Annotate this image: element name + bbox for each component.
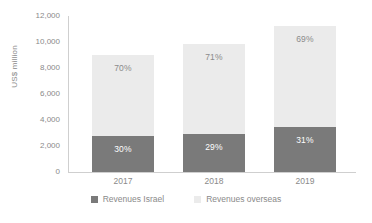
x-axis-tick-label-2017: 2017 (92, 177, 154, 186)
bar-segment-label: 31% (296, 136, 314, 145)
bar-segment-israel[interactable]: 31% (274, 127, 336, 172)
bar-group-2018[interactable]: 71% 29% (183, 44, 245, 172)
legend-item-label: Revenues overseas (206, 195, 281, 204)
chart-legend: Revenues Israel Revenues overseas (0, 195, 372, 204)
legend-item-revenues-overseas[interactable]: Revenues overseas (194, 195, 281, 204)
stacked-bar-chart: US$ million 12,000 10,000 8,000 6,000 4,… (0, 0, 372, 223)
legend-item-label: Revenues Israel (103, 195, 164, 204)
bars-layer: 70% 30% 71% 29% 69% (68, 16, 356, 173)
bar-segment-israel[interactable]: 30% (92, 136, 154, 172)
bar-segment-overseas[interactable]: 71% (183, 44, 245, 134)
bar-segment-label: 71% (205, 53, 223, 62)
bar-segment-label: 30% (114, 145, 132, 154)
y-axis-tick-label: 12,000 (36, 12, 60, 20)
y-axis-tick-label: 4,000 (40, 116, 60, 124)
y-axis-tick-label: 8,000 (40, 64, 60, 72)
y-axis-tick-label: 10,000 (36, 38, 60, 46)
bar-segment-label: 70% (114, 64, 132, 73)
bar-segment-overseas[interactable]: 69% (274, 26, 336, 127)
x-axis-tick-label-2018: 2018 (183, 177, 245, 186)
y-axis-tick-labels: 12,000 10,000 8,000 6,000 4,000 2,000 0 (18, 16, 64, 173)
bar-group-2017[interactable]: 70% 30% (92, 55, 154, 172)
bar-segment-israel[interactable]: 29% (183, 134, 245, 172)
bar-segment-overseas[interactable]: 70% (92, 55, 154, 136)
y-axis-tick-label: 0 (56, 168, 60, 176)
legend-swatch-icon (194, 196, 201, 203)
bar-segment-label: 29% (205, 143, 223, 152)
y-axis-tick-label: 2,000 (40, 142, 60, 150)
plot-area: 70% 30% 71% 29% 69% (68, 16, 356, 173)
legend-item-revenues-israel[interactable]: Revenues Israel (91, 195, 164, 204)
legend-swatch-icon (91, 196, 98, 203)
x-axis-tick-labels: 2017 2018 2019 (68, 177, 356, 189)
bar-group-2019[interactable]: 69% 31% (274, 26, 336, 172)
y-axis-tick-label: 6,000 (40, 90, 60, 98)
bar-segment-label: 69% (296, 35, 314, 44)
x-axis-tick-label-2019: 2019 (274, 177, 336, 186)
